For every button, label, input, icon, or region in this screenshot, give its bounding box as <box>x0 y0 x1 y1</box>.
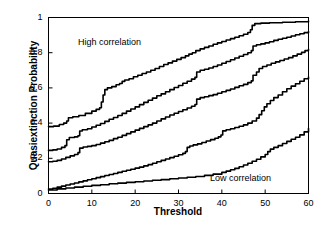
chart-figure: 00.20.40.60.81 0102030405060 Threshold Q… <box>0 0 326 236</box>
y-axis-title: Quasiextinction Probability <box>28 21 39 191</box>
annotation-high-correlation: High correlation <box>78 37 141 47</box>
annotation-low-correlation: Low correlation <box>210 173 271 183</box>
x-axis-title: Threshold <box>48 206 308 217</box>
